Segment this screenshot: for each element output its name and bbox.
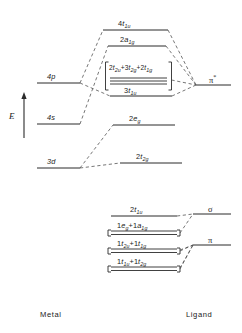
ligand-group-label-sigma: σ (208, 204, 213, 214)
energy-axis (21, 92, 26, 138)
level-label-3d: 3d (47, 157, 55, 166)
level-label-nonbonding-cluster: 2t2u+3t2g+2t1g (109, 64, 152, 71)
energy-axis-label: E (9, 111, 15, 121)
level-label-4s: 4s (47, 113, 55, 122)
ligand-group-label-pi: π (208, 235, 212, 245)
mo-diagram-figure: E 4p 4s 3d 4t1u 2a1g 3t1u 2eg 2t2g 2t2u+… (0, 0, 242, 333)
level-label-3t1u: 3t1u (124, 86, 136, 95)
level-label-2t2g: 2t2g (136, 152, 148, 161)
level-label-2a1g: 2a1g (120, 35, 135, 44)
level-label-2t1u: 2t1u (130, 205, 142, 214)
diagram-canvas (0, 0, 242, 333)
caption-metal: Metal (40, 310, 62, 319)
level-label-2eg: 2eg (129, 114, 140, 123)
level-label-1t2u-1t1g: 1t2u+1t1g (117, 239, 146, 248)
caption-ligand: Ligand (186, 310, 212, 319)
level-label-4p: 4p (47, 72, 55, 81)
ligand-group-label-pi-star: π* (209, 74, 216, 85)
level-label-4t1u: 4t1u (118, 19, 130, 28)
level-label-1t1u-1t2g: 1t1u+1t2g (117, 257, 146, 266)
level-label-1eg-1a1g: 1eg+1a1g (117, 221, 147, 230)
